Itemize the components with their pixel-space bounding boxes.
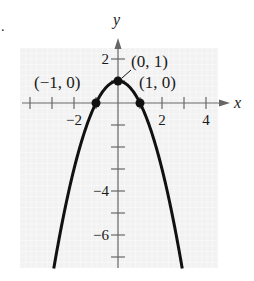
point-marker [92,99,101,108]
y-axis-label: y [111,11,121,29]
y-tick-label: −6 [93,227,109,243]
point-marker [136,99,145,108]
parabola-chart: −2242−4−6 (−1, 0)(0, 1)(1, 0) . x y [0,0,254,281]
point-label: (0, 1) [131,52,168,71]
point-label: (1, 0) [139,73,176,92]
y-tick-label: −4 [93,183,109,199]
x-tick-label: −2 [66,112,82,128]
x-tick-label: 2 [158,112,166,128]
y-axis-arrow-icon [115,38,122,49]
exercise-marker: . [1,19,5,34]
x-tick-label: 4 [202,112,210,128]
point-marker [114,77,123,86]
x-axis-arrow-icon [219,100,230,107]
x-axis-label: x [233,94,241,111]
point-label: (−1, 0) [34,73,80,92]
y-tick-label: 2 [102,51,110,67]
